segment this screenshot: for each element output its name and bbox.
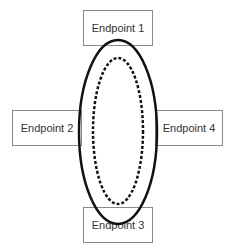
outer-ring xyxy=(79,40,157,224)
inner-dashed-ring xyxy=(93,58,143,204)
ring-diagram xyxy=(0,0,233,252)
